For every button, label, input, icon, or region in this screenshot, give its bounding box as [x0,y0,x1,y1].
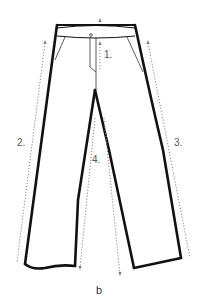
waistband [57,25,135,38]
measurement-label-2: 2. [17,137,25,148]
measurement-label-4: 4. [92,154,100,165]
pocket-and-fly-details [55,34,143,90]
trousers-outline [25,25,181,269]
trousers-diagram [0,0,200,306]
measurement-line-3 [148,43,190,258]
measurement-label-1: 1. [104,49,112,60]
measurement-label-3: 3. [174,137,182,148]
measurement-arrow-ticks [44,18,150,276]
figure-caption: b [96,284,102,296]
